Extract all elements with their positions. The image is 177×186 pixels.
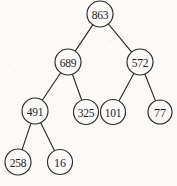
tree-edge	[145, 74, 156, 101]
tree-edge	[41, 123, 55, 151]
tree-canvas: 8636895724913251017725816	[0, 0, 177, 186]
tree-node: 325	[74, 100, 99, 125]
node-value: 689	[60, 57, 77, 69]
tree-edges	[22, 24, 155, 151]
tree-edge	[42, 73, 60, 100]
node-value: 863	[92, 9, 109, 21]
tree-node: 101	[101, 100, 126, 125]
tree-node: 572	[127, 49, 153, 75]
node-value: 572	[132, 57, 149, 69]
tree-edge	[22, 123, 31, 149]
tree-node: 258	[5, 149, 31, 175]
tree-edge	[72, 74, 81, 100]
tree-node: 491	[22, 98, 48, 124]
tree-edge	[75, 25, 93, 51]
node-value: 258	[10, 157, 27, 169]
tree-node: 77	[148, 100, 172, 124]
node-value: 101	[105, 107, 122, 119]
tree-node: 16	[48, 150, 73, 175]
node-value: 77	[154, 106, 166, 120]
tree-node: 863	[87, 1, 113, 27]
tree-nodes: 8636895724913251017725816	[5, 1, 172, 175]
tree-edge	[108, 24, 131, 52]
node-value: 491	[27, 106, 44, 118]
tree-edge	[119, 73, 134, 101]
binary-tree-figure: 8636895724913251017725816	[0, 0, 177, 186]
node-value: 16	[54, 156, 66, 170]
tree-node: 689	[55, 49, 81, 75]
node-value: 325	[78, 107, 95, 119]
